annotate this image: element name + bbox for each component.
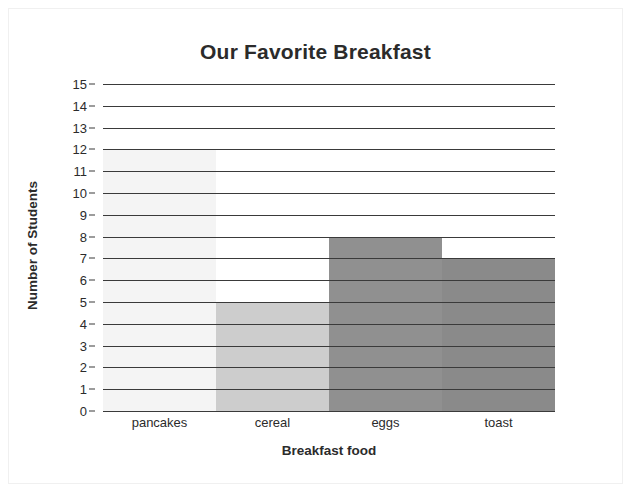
y-tick-mark xyxy=(89,367,95,368)
y-tick-mark xyxy=(89,389,95,390)
y-tick-mark xyxy=(89,214,95,215)
y-tick-mark xyxy=(89,171,95,172)
y-tick-mark xyxy=(89,302,95,303)
gridline xyxy=(103,411,555,412)
bar-column xyxy=(103,84,216,411)
y-tick-mark xyxy=(89,127,95,128)
plot-area xyxy=(103,84,555,411)
y-tick-label: 8 xyxy=(80,229,87,244)
x-tick-label: cereal xyxy=(216,415,329,430)
y-tick-label: 15 xyxy=(73,77,87,92)
x-axis-title: Breakfast food xyxy=(103,443,555,458)
y-tick-label: 13 xyxy=(73,120,87,135)
bar-column xyxy=(216,84,329,411)
bar-series xyxy=(103,84,555,411)
bar-column xyxy=(329,84,442,411)
y-tick-label: 1 xyxy=(80,382,87,397)
y-tick-label: 4 xyxy=(80,316,87,331)
y-tick-mark xyxy=(89,280,95,281)
y-tick-label: 6 xyxy=(80,273,87,288)
y-tick-mark xyxy=(89,84,95,85)
bar-cereal xyxy=(216,302,329,411)
y-tick-mark xyxy=(89,105,95,106)
y-tick-label: 10 xyxy=(73,186,87,201)
x-tick-label: pancakes xyxy=(103,415,216,430)
y-tick-label: 3 xyxy=(80,338,87,353)
bar-toast xyxy=(442,258,555,411)
x-axis-tick-labels: pancakescerealeggstoast xyxy=(103,415,555,430)
bar-chart-figure: Our Favorite Breakfast Number of Student… xyxy=(0,0,631,492)
y-tick-mark xyxy=(89,149,95,150)
y-tick-mark xyxy=(89,236,95,237)
x-tick-label: eggs xyxy=(329,415,442,430)
x-tick-label: toast xyxy=(442,415,555,430)
y-tick-label: 2 xyxy=(80,360,87,375)
chart-title: Our Favorite Breakfast xyxy=(0,40,631,64)
y-tick-mark xyxy=(89,258,95,259)
y-tick-label: 14 xyxy=(73,98,87,113)
y-tick-label: 7 xyxy=(80,251,87,266)
bar-eggs xyxy=(329,237,442,411)
y-tick-mark xyxy=(89,193,95,194)
y-tick-label: 0 xyxy=(80,404,87,419)
y-tick-label: 9 xyxy=(80,207,87,222)
y-tick-label: 5 xyxy=(80,295,87,310)
y-tick-mark xyxy=(89,411,95,412)
y-tick-label: 12 xyxy=(73,142,87,157)
bar-column xyxy=(442,84,555,411)
y-tick-label: 11 xyxy=(74,164,88,179)
y-axis-tick-labels: 1514131211109876543210 xyxy=(0,84,95,411)
bar-pancakes xyxy=(103,149,216,411)
y-tick-mark xyxy=(89,345,95,346)
y-tick-mark xyxy=(89,323,95,324)
